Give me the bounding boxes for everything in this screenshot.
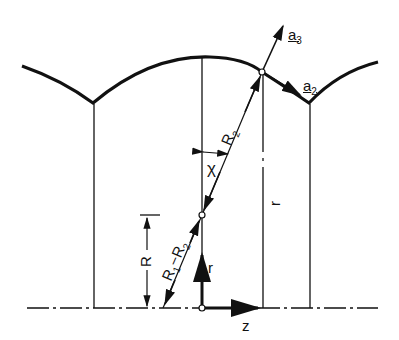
diagram: a3 a2 R2 χ r R R1−R2 r z <box>0 0 399 340</box>
a3-vector <box>262 26 283 72</box>
label-R: R <box>138 256 153 267</box>
center-point <box>199 212 205 218</box>
profile-curve <box>22 57 378 103</box>
label-r-axis: r <box>208 260 213 275</box>
chi-angle-arrow <box>203 152 228 154</box>
label-chi: χ <box>207 160 216 177</box>
label-r-long: r <box>267 201 282 206</box>
r1r2-arrow-top <box>190 221 199 243</box>
label-a3: a3 <box>288 27 302 46</box>
label-z-axis: z <box>242 318 250 333</box>
geometry-drawing <box>0 0 399 340</box>
label-a2: a2 <box>303 78 317 97</box>
r1r2-arrow <box>165 280 175 304</box>
r2-arrow <box>245 77 260 112</box>
surface-point <box>259 69 265 75</box>
origin-point <box>199 305 205 311</box>
a2-vector <box>262 72 300 95</box>
